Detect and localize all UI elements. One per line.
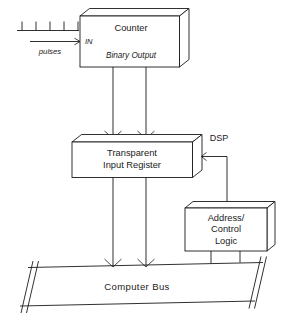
address-control-label-line2: Control [211,224,241,234]
pulses-label: pulses [38,47,62,56]
address-control-logic-block[interactable]: Address/ Control Logic [185,202,275,252]
register-to-bus-wires [105,178,155,268]
counter-top-face [80,9,189,17]
block-diagram: pulses Counter IN Binary Output Tra [0,0,287,323]
counter-to-register-wires [105,67,155,139]
address-control-to-bus-wires [211,251,240,264]
counter-block[interactable]: Counter IN Binary Output [80,9,189,68]
counter-binary-output-label: Binary Output [106,51,157,60]
address-control-side-face [267,202,275,252]
counter-side-face [180,9,190,68]
bus-break-right-2 [255,257,267,309]
address-control-label-line3: Logic [215,236,238,246]
computer-bus[interactable]: Computer Bus [20,257,267,314]
address-control-label-line1: Address/ [208,213,245,223]
register-label-line1: Transparent [107,148,157,158]
register-label-line2: Input Register [103,160,161,170]
transparent-input-register-block[interactable]: Transparent Input Register [72,135,202,178]
bus-bottom-edge [20,301,255,306]
counter-label: Counter [114,23,147,33]
bus-break-right-1 [249,257,261,309]
register-side-face [193,135,203,178]
dsp-wire [202,157,227,203]
diagram-canvas: pulses Counter IN Binary Output Tra [0,0,287,323]
dsp-control-line [201,153,227,203]
dsp-label: DSP [210,133,229,143]
register-top-face [72,135,202,143]
pulse-train-graphic [17,22,79,31]
counter-in-port-label: IN [85,37,93,46]
pulses-signal-arrow [30,38,80,45]
address-control-top-face [185,202,275,209]
computer-bus-label: Computer Bus [104,281,170,292]
bus-break-left-1 [21,261,33,313]
